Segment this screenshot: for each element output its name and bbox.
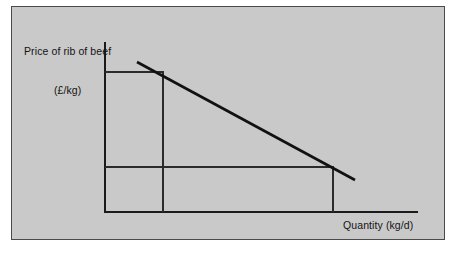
y-axis-label-line2: (£/kg): [24, 84, 111, 97]
y-axis-label-line1: Price of rib of beef: [24, 45, 111, 58]
y-axis-label: Price of rib of beef (£/kg): [24, 19, 111, 123]
figure-container: Price of rib of beef (£/kg) Quantity (kg…: [0, 0, 460, 259]
demand-curve-line: [137, 62, 355, 180]
x-axis-label: Quantity (kg/d): [343, 219, 413, 232]
